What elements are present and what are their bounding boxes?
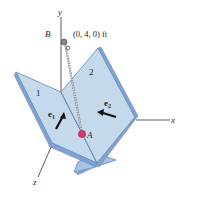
- point-B-label: B: [45, 29, 51, 39]
- panel-1-label: 1: [36, 88, 41, 98]
- panel-2-label: 2: [89, 67, 94, 77]
- panel-diagram: y x z B (0, 4, 0) ft A 1 2 e1 e2: [0, 0, 218, 202]
- point-A: [78, 130, 85, 137]
- point-A-label: A: [86, 130, 93, 140]
- z-axis-label: z: [32, 177, 37, 187]
- y-axis-label: y: [57, 7, 62, 17]
- anchor-B: [61, 39, 67, 45]
- x-axis-label: x: [170, 115, 175, 125]
- z-axis: [38, 145, 52, 177]
- point-B-coords: (0, 4, 0) ft: [73, 29, 108, 39]
